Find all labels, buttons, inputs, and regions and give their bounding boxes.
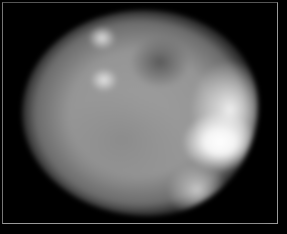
shadow-notch bbox=[210, 170, 270, 220]
